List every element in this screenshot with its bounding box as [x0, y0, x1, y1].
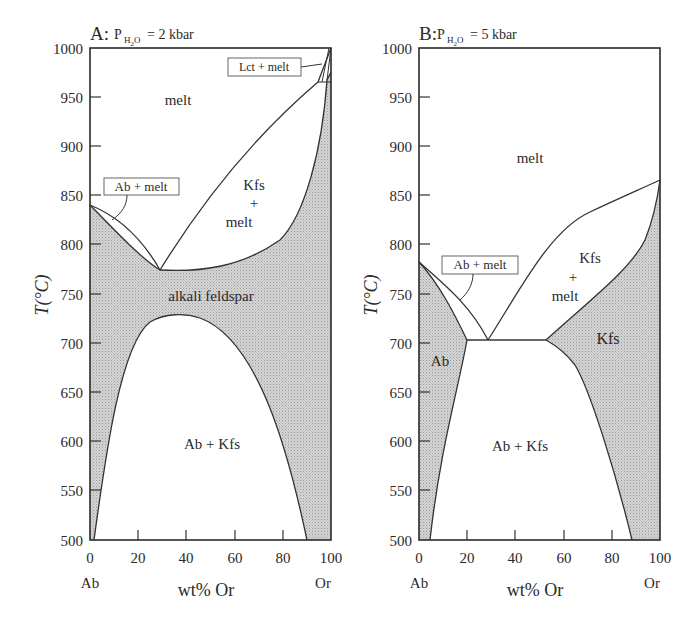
x-axis-label-b: wt% Or — [507, 580, 564, 600]
melt-label-a: melt — [165, 92, 192, 108]
y-tick-labels-a: 1000950 900850 800750 700650 600550 500 — [53, 41, 83, 549]
ab-end-label-b: Ab — [410, 575, 428, 591]
svg-text:750: 750 — [61, 287, 84, 303]
alkali-feldspar-field — [90, 72, 331, 540]
svg-text:40: 40 — [508, 550, 523, 566]
svg-text:700: 700 — [390, 336, 413, 352]
panel-b-pressure: = 5 kbar — [470, 27, 517, 42]
svg-text:550: 550 — [390, 483, 413, 499]
kfs-label-b: Kfs — [579, 250, 601, 266]
ab-melt-label-b: Ab + melt — [454, 257, 507, 272]
svg-text:750: 750 — [390, 287, 413, 303]
or-end-label-a: Or — [315, 575, 331, 591]
melt-label-b: melt — [517, 150, 544, 166]
panel-b-sub: H2O — [447, 35, 464, 48]
panel-a: Ab + melt Lct + melt melt Kfs + melt alk… — [32, 23, 342, 600]
svg-text:500: 500 — [390, 533, 413, 549]
svg-text:950: 950 — [61, 90, 84, 106]
panel-a-p: P — [114, 27, 122, 42]
ab-melt-label-a: Ab + melt — [115, 179, 168, 194]
x-axis-label-a: wt% Or — [178, 580, 235, 600]
svg-text:700: 700 — [61, 336, 84, 352]
ab-end-label-a: Ab — [81, 575, 99, 591]
svg-text:800: 800 — [390, 237, 413, 253]
svg-text:60: 60 — [228, 550, 243, 566]
svg-text:1000: 1000 — [382, 41, 412, 57]
svg-text:900: 900 — [390, 139, 413, 155]
ab-solid-field-b — [419, 262, 467, 540]
panel-a-pressure: = 2 kbar — [147, 27, 194, 42]
svg-text:1000: 1000 — [53, 41, 83, 57]
melt2-label-b: melt — [552, 288, 579, 304]
x-tick-labels-a: 020 4060 80100 — [86, 550, 342, 566]
svg-text:80: 80 — [276, 550, 291, 566]
ab-kfs-label-a: Ab + Kfs — [184, 436, 240, 452]
melt2-label-a: melt — [226, 214, 253, 230]
svg-text:80: 80 — [605, 550, 620, 566]
panel-b-letter: B: — [419, 23, 437, 44]
svg-text:20: 20 — [460, 550, 475, 566]
svg-text:500: 500 — [61, 533, 84, 549]
alkali-feldspar-label: alkali feldspar — [168, 288, 253, 304]
svg-text:60: 60 — [557, 550, 572, 566]
lct-melt-label-a: Lct + melt — [239, 60, 290, 74]
svg-text:550: 550 — [61, 483, 84, 499]
or-end-label-b: Or — [644, 575, 660, 591]
figure: Ab + melt Lct + melt melt Kfs + melt alk… — [0, 0, 692, 623]
svg-text:900: 900 — [61, 139, 84, 155]
svg-text:100: 100 — [649, 550, 672, 566]
y-tick-labels-b: 1000950 900850 800750 700650 600550 500 — [382, 41, 412, 549]
ab-melt-leader-a — [112, 195, 127, 220]
svg-text:20: 20 — [131, 550, 146, 566]
svg-text:600: 600 — [61, 434, 84, 450]
x-tick-labels-b: 020 4060 80100 — [415, 550, 671, 566]
kfs-label-a: Kfs — [243, 177, 265, 193]
ab-melt-leader-b — [460, 274, 473, 300]
svg-text:600: 600 — [390, 434, 413, 450]
y-axis-label-a: T(°C) — [32, 274, 53, 315]
kfs-field-label-b: Kfs — [596, 330, 619, 347]
svg-text:100: 100 — [320, 550, 343, 566]
panel-b: Ab + melt melt Kfs + melt Ab Kfs Ab + Kf… — [361, 23, 671, 600]
svg-text:850: 850 — [61, 188, 84, 204]
svg-text:650: 650 — [61, 385, 84, 401]
plus-label-a: + — [250, 195, 258, 211]
ab-kfs-label-b: Ab + Kfs — [492, 438, 548, 454]
svg-text:40: 40 — [179, 550, 194, 566]
svg-text:950: 950 — [390, 90, 413, 106]
y-axis-label-b: T(°C) — [361, 274, 382, 315]
panel-a-sub: H2O — [124, 35, 141, 48]
panel-b-p: P — [437, 27, 445, 42]
svg-text:800: 800 — [61, 237, 84, 253]
plus-label-b: + — [569, 269, 577, 285]
svg-text:850: 850 — [390, 188, 413, 204]
svg-text:0: 0 — [415, 550, 423, 566]
svg-text:0: 0 — [86, 550, 94, 566]
lct-leader-a — [301, 64, 322, 67]
kfs-solid-field-b — [546, 180, 660, 540]
svg-text:650: 650 — [390, 385, 413, 401]
ab-field-label-b: Ab — [431, 353, 449, 369]
panel-a-letter: A: — [90, 23, 109, 44]
